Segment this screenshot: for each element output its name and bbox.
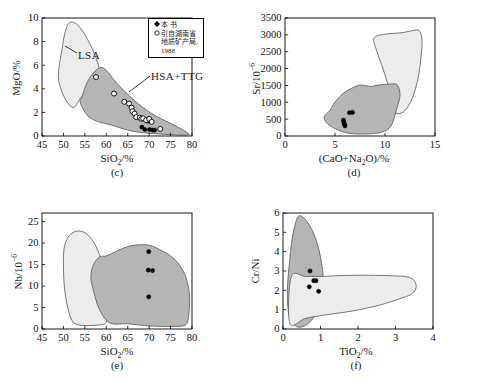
panel-d: Sr/10−6 05101505001000150020002500300035… — [239, 0, 478, 195]
panel-d-ylabel: Sr/10−6 — [248, 48, 262, 110]
svg-text:1: 1 — [318, 332, 323, 343]
panel-c-id: (c) — [42, 166, 192, 178]
legend-label-0: 本 书 — [161, 21, 177, 30]
svg-text:500: 500 — [266, 114, 282, 125]
svg-text:10: 10 — [380, 139, 391, 150]
svg-text:80: 80 — [187, 332, 198, 343]
legend-panel-c: 本 书 引自湖南省 地质矿产局, 1988 — [148, 18, 204, 58]
svg-text:0: 0 — [280, 332, 285, 343]
legend-item-0: 本 书 — [152, 21, 200, 30]
panel-f-id: (f) — [281, 359, 431, 371]
svg-text:50: 50 — [58, 332, 69, 343]
svg-text:5: 5 — [33, 302, 38, 313]
panel-e-ylabel: Nb/10−6 — [10, 241, 24, 303]
figure-root: MgO/% 45505560657075800246810 SiO2/% (c)… — [0, 0, 478, 389]
svg-text:65: 65 — [122, 332, 133, 343]
svg-text:75: 75 — [165, 139, 176, 150]
svg-text:10: 10 — [28, 280, 39, 291]
legend-label-1: 引自湖南省 — [161, 30, 196, 39]
svg-text:6: 6 — [274, 207, 279, 218]
legend-label-3: 1988 — [161, 47, 175, 56]
svg-text:10: 10 — [28, 12, 39, 23]
svg-text:8: 8 — [33, 36, 38, 47]
svg-text:1: 1 — [274, 304, 279, 315]
svg-text:0: 0 — [276, 130, 281, 141]
svg-text:0: 0 — [282, 139, 287, 150]
svg-text:75: 75 — [165, 332, 176, 343]
annotation-lsa: LSA — [78, 49, 100, 61]
svg-text:3000: 3000 — [261, 29, 282, 40]
svg-text:0: 0 — [33, 323, 38, 334]
svg-text:55: 55 — [80, 139, 91, 150]
svg-text:3500: 3500 — [261, 12, 282, 23]
panel-d-xlabel: (CaO+Na2O)/% — [269, 152, 439, 167]
svg-text:80: 80 — [187, 139, 198, 150]
svg-text:3: 3 — [274, 265, 279, 276]
panel-c-xlabel: SiO2/% — [42, 152, 192, 167]
svg-text:4: 4 — [274, 246, 280, 257]
svg-text:55: 55 — [80, 332, 91, 343]
svg-text:20: 20 — [28, 237, 39, 248]
svg-text:1000: 1000 — [261, 97, 282, 108]
svg-text:60: 60 — [101, 332, 112, 343]
panel-f-ylabel: Cr/Ni — [249, 246, 261, 296]
panel-f: Cr/Ni 012340123456 TiO2/% (f) — [239, 195, 478, 389]
svg-text:70: 70 — [144, 139, 155, 150]
svg-text:0: 0 — [33, 130, 38, 141]
svg-text:15: 15 — [430, 139, 441, 150]
panel-e: Nb/10−6 45505560657075800510152025 SiO2/… — [0, 195, 239, 389]
svg-text:4: 4 — [33, 83, 39, 94]
svg-text:6: 6 — [33, 60, 38, 71]
legend-label-2: 地质矿产局, — [161, 38, 198, 47]
svg-text:5: 5 — [332, 139, 337, 150]
panel-c: MgO/% 45505560657075800246810 SiO2/% (c)… — [0, 0, 239, 195]
svg-text:5: 5 — [274, 227, 279, 238]
legend-item-2: 地质矿产局, — [152, 38, 200, 47]
legend-item-3: 1988 — [152, 47, 200, 56]
svg-text:1500: 1500 — [261, 80, 282, 91]
panel-c-ylabel: MgO/% — [10, 50, 22, 106]
svg-text:50: 50 — [58, 139, 69, 150]
svg-text:60: 60 — [101, 139, 112, 150]
svg-text:0: 0 — [274, 323, 279, 334]
panel-d-id: (d) — [269, 166, 439, 178]
svg-text:2000: 2000 — [261, 63, 282, 74]
svg-text:3: 3 — [393, 332, 398, 343]
annotation-hsa-ttg: HSA+TTG — [151, 70, 203, 82]
svg-text:25: 25 — [28, 216, 39, 227]
panel-e-id: (e) — [42, 359, 192, 371]
svg-text:2: 2 — [33, 107, 38, 118]
svg-text:70: 70 — [144, 332, 155, 343]
svg-text:2: 2 — [274, 285, 279, 296]
svg-text:65: 65 — [122, 139, 133, 150]
legend-item-1: 引自湖南省 — [152, 30, 200, 39]
svg-text:2: 2 — [355, 332, 360, 343]
svg-text:4: 4 — [430, 332, 436, 343]
open-circle-icon — [152, 30, 161, 36]
svg-text:2500: 2500 — [261, 46, 282, 57]
svg-text:15: 15 — [28, 259, 39, 270]
panel-e-xlabel: SiO2/% — [42, 345, 192, 360]
filled-diamond-icon — [152, 21, 161, 27]
panel-f-xlabel: TiO2/% — [281, 345, 431, 360]
